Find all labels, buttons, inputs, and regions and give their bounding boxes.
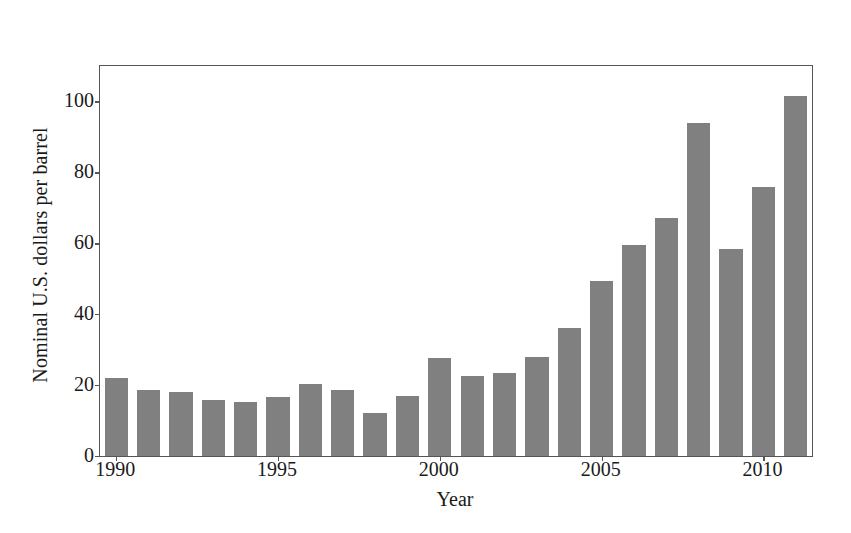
bar (622, 245, 645, 456)
bar (363, 413, 386, 456)
y-tick-label: 60 (74, 232, 94, 252)
bar (719, 249, 742, 456)
x-tick-label: 1995 (257, 459, 297, 479)
x-tick-label: 2005 (581, 459, 621, 479)
y-tick-mark (95, 385, 100, 386)
y-axis-tick-labels: 020406080100 (40, 0, 94, 533)
y-tick-label: 80 (74, 161, 94, 181)
x-axis-tick-labels: 19901995200020052010 (99, 459, 811, 489)
bar (234, 402, 257, 456)
bar-chart-figure: Nominal U.S. dollars per barrel 02040608… (0, 0, 851, 533)
y-tick-label: 20 (74, 374, 94, 394)
y-tick-mark (95, 243, 100, 244)
bar (169, 392, 192, 456)
y-tick-label: 100 (64, 90, 94, 110)
bar (687, 123, 710, 456)
bar (331, 390, 354, 456)
bar (428, 358, 451, 456)
bar (752, 187, 775, 456)
bar (266, 397, 289, 456)
bar (655, 218, 678, 456)
y-tick-mark (95, 314, 100, 315)
x-tick-label: 1990 (95, 459, 135, 479)
bar (202, 400, 225, 456)
y-tick-mark (95, 101, 100, 102)
bar-series (100, 66, 812, 456)
x-axis-title: Year (99, 489, 811, 509)
bar (105, 378, 128, 456)
bar (137, 390, 160, 456)
y-tick-label: 0 (84, 445, 94, 465)
bar (396, 396, 419, 456)
bar (525, 357, 548, 456)
x-tick-label: 2010 (742, 459, 782, 479)
y-tick-mark (95, 172, 100, 173)
bar (299, 384, 322, 456)
y-tick-label: 40 (74, 303, 94, 323)
bar (590, 281, 613, 457)
x-tick-label: 2000 (419, 459, 459, 479)
plot-area (99, 65, 813, 457)
bar (784, 96, 807, 456)
bar (493, 373, 516, 456)
bar (558, 328, 581, 456)
bar (461, 376, 484, 456)
